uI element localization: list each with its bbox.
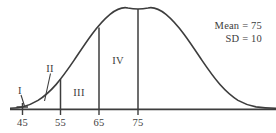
leader-line-region-II <box>45 74 51 102</box>
region-label-II: II <box>46 64 54 75</box>
x-tick-label-75: 75 <box>133 118 144 129</box>
stats-annotation: Mean = 75 SD = 10 <box>215 19 262 45</box>
mean-annotation-text: Mean = 75 <box>215 19 262 32</box>
region-label-I: I <box>18 86 22 97</box>
x-tick-label-65: 65 <box>94 118 105 129</box>
region-label-III: III <box>73 88 84 99</box>
x-tick-label-55: 55 <box>55 118 66 129</box>
sd-annotation-text: SD = 10 <box>215 32 262 45</box>
x-tick-label-45: 45 <box>17 118 28 129</box>
normal-distribution-figure: 45 55 65 75 I II III IV Mean = 75 SD = 1… <box>0 0 276 133</box>
region-label-IV: IV <box>112 56 124 67</box>
